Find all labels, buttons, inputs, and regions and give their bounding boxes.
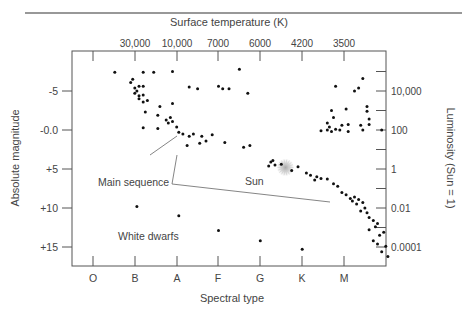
star-point [171, 70, 174, 73]
star-point [340, 191, 343, 194]
star-point [320, 177, 323, 180]
top-tick-label: 4200 [291, 38, 314, 49]
y-axis-title: Absolute magnitude [9, 109, 21, 206]
magnitude-label: -5 [49, 85, 58, 97]
spectral-type-label: M [340, 272, 349, 284]
star-point [169, 116, 172, 119]
annotation-label: White dwarfs [118, 230, 179, 242]
star-point [188, 135, 191, 138]
star-point [181, 132, 184, 135]
star-point [165, 118, 168, 121]
star-point [382, 231, 385, 234]
star-point [374, 225, 377, 228]
star-point [349, 197, 352, 200]
magnitude-label: -0.0 [40, 124, 58, 136]
star-point [290, 169, 293, 172]
star-point [363, 207, 366, 210]
star-point [129, 81, 132, 84]
star-point [269, 161, 272, 164]
magnitude-label: +15 [40, 241, 58, 253]
star-point [131, 78, 134, 81]
star-point [353, 90, 356, 93]
star-point [113, 71, 116, 74]
spectral-type-label: A [173, 272, 180, 284]
right-axis-ticks: 10,00010010.010.0001 [376, 72, 422, 254]
star-point [192, 132, 195, 135]
star-point [186, 144, 189, 147]
spectral-type-label: B [131, 272, 138, 284]
annotation-label: Sun [245, 175, 264, 187]
spectral-type-label: O [89, 272, 97, 284]
luminosity-label: 0.0001 [391, 242, 422, 253]
star-point [326, 129, 329, 132]
star-point [138, 94, 141, 97]
top-tick-label: 3500 [333, 38, 356, 49]
star-point [158, 105, 161, 108]
annotation-label: Main sequence [98, 176, 169, 188]
star-point [144, 111, 147, 114]
star-point [357, 198, 360, 201]
star-point [138, 85, 141, 88]
star-point [146, 99, 149, 102]
star-point [326, 122, 329, 125]
star-point [156, 127, 159, 130]
star-point [142, 93, 145, 96]
star-point [211, 133, 214, 136]
right-axis-title: Luminosity (Sun = 1) [445, 107, 457, 208]
luminosity-label: 1 [391, 164, 397, 175]
star-point [366, 110, 369, 113]
star-point [334, 85, 337, 88]
main-sequence-pointer-left [150, 136, 177, 155]
star-point [297, 165, 300, 168]
star-point [328, 125, 331, 128]
star-point [248, 144, 251, 147]
star-point [332, 116, 335, 119]
star-point [334, 128, 337, 131]
star-point [384, 245, 387, 248]
top-tick-label: 7000 [207, 38, 230, 49]
star-point [380, 129, 383, 132]
star-point [330, 130, 333, 133]
star-point [167, 122, 170, 125]
top-axis-title: Surface temperature (K) [170, 16, 288, 28]
star-point [142, 100, 145, 103]
star-point [309, 174, 312, 177]
star-point [171, 120, 174, 123]
main-sequence-pointer-stem [172, 155, 177, 184]
star-point [142, 85, 145, 88]
star-point [205, 139, 208, 142]
star-point [330, 109, 333, 112]
star-point [359, 210, 362, 213]
star-point [345, 193, 348, 196]
star-point [196, 87, 199, 90]
star-point [156, 114, 159, 117]
star-point [177, 214, 180, 217]
star-point [171, 102, 174, 105]
star-point [338, 129, 341, 132]
star-point [175, 125, 178, 128]
star-point [259, 239, 262, 242]
star-point [376, 222, 379, 225]
luminosity-label: 0.01 [391, 203, 411, 214]
star-point [326, 178, 329, 181]
sun-marker [276, 158, 294, 176]
star-point [386, 255, 389, 258]
star-point [200, 135, 203, 138]
star-point [351, 200, 354, 203]
star-point [238, 68, 241, 71]
star-point [345, 107, 348, 110]
star-point [368, 228, 371, 231]
star-point [353, 196, 356, 199]
star-point [359, 124, 362, 127]
bottom-axis-ticks: OBAFGKM [89, 256, 348, 284]
star-point [315, 175, 318, 178]
star-point [228, 87, 231, 90]
star-point [133, 92, 136, 95]
star-point [347, 130, 350, 133]
spectral-type-label: F [215, 272, 221, 284]
star-point [246, 92, 249, 95]
star-point [368, 216, 371, 219]
star-point [267, 164, 270, 167]
star-point [133, 86, 136, 89]
luminosity-label: 100 [391, 125, 408, 136]
